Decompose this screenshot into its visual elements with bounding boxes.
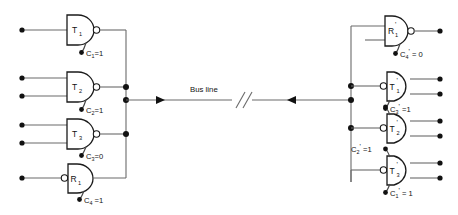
right-gate-r1-subscript: 1 [395,32,398,38]
right-gate-t2-prime: ' [397,119,398,126]
right-bus-junction-tap [348,97,354,103]
left-gate-t3-input-terminal-2[interactable] [19,140,24,145]
left-gate-t2: T 2 C2=1 [19,72,126,116]
right-bus-rail [348,26,354,182]
left-ctrl-c3-label: C3=0 [86,152,103,162]
right-gate-t3: T 3 ' C2' =1 C1' = 1 [351,143,443,199]
right-gate-t1-output-terminal-1[interactable] [437,76,442,81]
left-gate-t2-label: T [72,82,77,92]
left-ctrl-c2-dot[interactable] [79,107,84,112]
right-ctrl-c1-dot[interactable] [383,190,388,195]
right-ctrl-c4-label: C4' = 0 [400,48,423,60]
right-gate-t1-input-bubble [380,83,386,89]
left-ctrl-c4-dot[interactable] [77,197,82,202]
right-ctrl-c3-upper-dot[interactable] [383,105,388,110]
bus-line-left-arrow [156,96,165,104]
right-gate-t3-output-terminal-1[interactable] [437,160,442,165]
right-gate-r1: R 1 ' C4' = 0 [351,16,443,60]
left-ctrl-c1-dot[interactable] [79,50,84,55]
left-gate-t3-subscript: 3 [79,135,82,141]
right-gate-t3-output-terminal-2[interactable] [437,175,442,180]
bus-line-break-slash-1 [236,92,245,108]
circuit-svg: T 1 C1=1 T 2 C2=1 T 3 C3=0 [0,0,458,215]
left-ctrl-c2-label: C2=1 [86,106,103,116]
left-gate-t2-input-terminal-1[interactable] [19,75,24,80]
right-gate-t2-subscript: 2 [397,130,400,136]
left-gate-t3-output-bubble [93,131,99,137]
right-gate-r1-output-terminal[interactable] [437,28,442,33]
right-gate-t1: T 1 ' C3' =1 [351,72,443,115]
left-gate-r1-output-terminal[interactable] [19,175,24,180]
right-gate-t2-output-terminal-1[interactable] [437,118,442,123]
left-gate-t2-input-terminal-2[interactable] [19,93,24,98]
left-gate-t3: T 3 C3=0 [19,119,126,162]
right-gate-t3-subscript: 3 [397,172,400,178]
left-gate-r1-label: R [71,174,77,184]
left-gate-r1-input-bubble [61,175,67,181]
right-gate-t2-label: T [390,124,395,134]
bus-line-right-arrow [287,96,296,104]
left-bus-junction-t3 [123,131,129,137]
bus-line-label: Bus line [190,85,218,94]
left-gate-r1: R 1 C4 =1 [19,164,126,206]
right-gate-r1-label: R [388,26,394,36]
right-ctrl-c1-label: C1' = 1 [390,187,413,199]
left-gate-t2-output-bubble [93,84,99,90]
left-ctrl-c1-label: C1=1 [86,49,103,59]
bus-line: Bus line [126,85,351,108]
bus-line-break-slash-2 [243,92,252,108]
left-gate-t1-output-bubble [93,27,99,33]
left-gate-t2-subscript: 2 [79,88,82,94]
left-gate-r1-subscript: 1 [78,180,81,186]
right-gate-r1-output-bubble [408,28,414,34]
bus-line-circuit-diagram: T 1 C1=1 T 2 C2=1 T 3 C3=0 [0,0,458,215]
right-gate-r1-prime: ' [395,21,396,28]
right-gate-t2-output-terminal-2[interactable] [437,133,442,138]
right-ctrl-c2-dot[interactable] [383,147,388,152]
right-gate-t3-prime: ' [397,161,398,168]
right-gate-t1-label: T [390,82,395,92]
right-gate-t2-input-bubble [380,125,386,131]
right-ctrl-c4-dot[interactable] [393,51,398,56]
left-bus-junction-t2 [123,84,129,90]
left-gate-t1: T 1 C1=1 [19,15,126,59]
right-ctrl-c2-label: C2' =1 [351,143,372,155]
right-gate-t1-subscript: 1 [397,88,400,94]
left-gate-t1-input-terminal[interactable] [19,27,24,32]
left-ctrl-c3-dot[interactable] [79,153,84,158]
right-ctrl-c3-label: C3' =1 [390,103,411,115]
left-gate-t3-input-terminal-1[interactable] [19,122,24,127]
right-gate-t1-output-terminal-2[interactable] [437,91,442,96]
right-gate-t1-prime: ' [397,77,398,84]
left-gate-t3-label: T [72,129,77,139]
left-bus-rail [123,30,129,178]
left-gate-t1-subscript: 1 [79,31,82,37]
left-gate-t1-label: T [72,25,77,35]
right-gate-t3-input-bubble [380,167,386,173]
right-gate-t3-label: T [390,166,395,176]
left-ctrl-c4-label: C4 =1 [84,196,103,206]
